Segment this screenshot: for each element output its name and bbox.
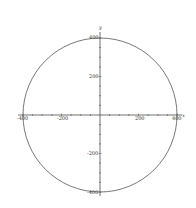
x-tick-label: 400 [172,115,182,121]
y-axis-label: y [98,24,102,31]
x-axis-label: x [182,112,185,118]
y-tick-label: 400 [89,34,99,40]
x-tick-label: -400 [17,115,28,121]
y-tick-label: -200 [87,150,98,156]
x-tick-label: -200 [57,115,68,121]
x-tick-label: 200 [135,115,145,121]
plot-canvas: y x -400 -200 200 400 400 200 -200 -400 [0,0,196,208]
y-tick-label: -400 [87,189,98,195]
y-tick-label: 200 [89,73,99,79]
circle-plot: y x -400 -200 200 400 400 200 -200 -400 [0,0,196,208]
